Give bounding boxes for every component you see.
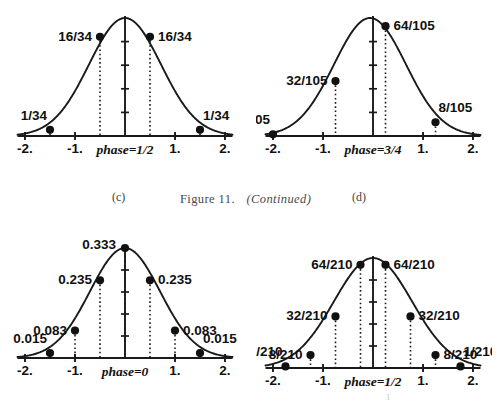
data-point-label: 8/210 <box>269 347 303 362</box>
data-point-label: 32/105 <box>286 73 328 88</box>
data-point-label: 64/210 <box>311 257 352 272</box>
data-point[interactable] <box>171 326 179 334</box>
panel-e: -2.-1.1.2.0.0150.0830.2350.3330.2350.083… <box>8 228 244 394</box>
data-point-label: 1/34 <box>21 108 48 123</box>
data-point[interactable] <box>196 349 204 357</box>
data-point-label: 0.083 <box>33 323 67 338</box>
x-axis-tick-label: -1. <box>315 141 331 156</box>
panel-letter-c: (c) <box>112 190 125 205</box>
data-point[interactable] <box>196 126 204 134</box>
x-axis-tick-label: 1. <box>169 363 180 378</box>
phase-annotation: phase=1/2 <box>95 142 153 157</box>
data-point-label: 16/34 <box>58 29 92 44</box>
figure-caption: Figure 11. (Continued) <box>180 192 311 207</box>
data-point[interactable] <box>331 77 339 85</box>
data-point[interactable] <box>331 312 339 320</box>
data-point-label: 16/34 <box>158 29 192 44</box>
x-axis-tick-label: 1. <box>169 141 180 156</box>
panel-f: -2.-1.1.2.1/2108/21032/21064/21064/21032… <box>256 228 492 394</box>
x-axis-tick-label: 2. <box>467 141 478 156</box>
page-number: 1 <box>386 392 391 402</box>
data-point[interactable] <box>96 276 104 284</box>
phase-annotation: phase=1/2 <box>343 374 401 389</box>
panel-d: -2.-1.1.2.1/10532/10564/1058/105phase=3/… <box>256 2 492 160</box>
data-point-label: 1/210 <box>464 344 493 359</box>
x-axis-tick-label: 2. <box>467 373 478 388</box>
phase-annotation: phase=0 <box>101 364 149 379</box>
x-axis-tick-label: -2. <box>17 363 33 378</box>
data-point[interactable] <box>269 130 277 138</box>
figure-caption-suffix: (Continued) <box>246 192 311 206</box>
data-point[interactable] <box>381 261 389 269</box>
data-point[interactable] <box>121 244 129 252</box>
x-axis-tick-label: -1. <box>67 141 83 156</box>
data-point-label: 0.333 <box>82 237 116 252</box>
data-point-label: 1/34 <box>203 108 230 123</box>
panel-letter-d: (d) <box>352 190 366 205</box>
data-point-label: 1/105 <box>256 112 270 127</box>
x-axis-tick-label: -2. <box>265 373 281 388</box>
figure-caption-prefix: Figure 11. <box>180 192 235 206</box>
data-point[interactable] <box>306 351 314 359</box>
data-point[interactable] <box>46 349 54 357</box>
data-point[interactable] <box>146 33 154 41</box>
x-axis-tick-label: 2. <box>219 363 230 378</box>
x-axis-tick-label: -1. <box>315 373 331 388</box>
panel-e-plot: -2.-1.1.2.0.0150.0830.2350.3330.2350.083… <box>8 228 244 394</box>
data-point[interactable] <box>431 351 439 359</box>
data-point-label: 32/210 <box>286 308 327 323</box>
data-point[interactable] <box>356 261 364 269</box>
data-point-label: 0.015 <box>203 331 237 346</box>
x-axis-tick-label: -1. <box>67 363 83 378</box>
data-point[interactable] <box>431 118 439 126</box>
data-point[interactable] <box>456 362 464 370</box>
panel-c: -2.-1.1.2.1/3416/3416/341/34phase=1/2 <box>8 2 244 160</box>
figure-root: -2.-1.1.2.1/3416/3416/341/34phase=1/2 (c… <box>0 0 498 410</box>
data-point[interactable] <box>381 22 389 30</box>
data-point[interactable] <box>46 126 54 134</box>
panel-c-plot: -2.-1.1.2.1/3416/3416/341/34phase=1/2 <box>8 2 244 160</box>
x-axis-tick-label: -2. <box>17 141 33 156</box>
data-point[interactable] <box>146 276 154 284</box>
x-axis-tick-label: 1. <box>417 373 428 388</box>
data-point-label: 64/210 <box>394 257 435 272</box>
x-axis-tick-label: -2. <box>265 141 281 156</box>
phase-annotation: phase=3/4 <box>343 142 401 157</box>
data-point-label: 32/210 <box>419 308 460 323</box>
x-axis-tick-label: 1. <box>417 141 428 156</box>
data-point[interactable] <box>71 326 79 334</box>
data-point[interactable] <box>281 362 289 370</box>
data-point-label: 8/105 <box>439 100 473 115</box>
panel-d-plot: -2.-1.1.2.1/10532/10564/1058/105phase=3/… <box>256 2 492 160</box>
data-point-label: 64/105 <box>394 18 436 33</box>
data-point[interactable] <box>406 312 414 320</box>
panel-f-plot: -2.-1.1.2.1/2108/21032/21064/21064/21032… <box>256 228 492 394</box>
x-axis-tick-label: 2. <box>219 141 230 156</box>
data-point[interactable] <box>96 33 104 41</box>
data-point-label: 0.235 <box>158 272 192 287</box>
data-point-label: 0.235 <box>58 272 92 287</box>
